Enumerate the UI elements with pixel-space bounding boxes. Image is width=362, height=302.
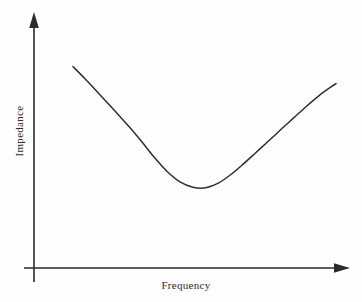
y-axis-label: Impedance <box>0 95 38 167</box>
y-axis-arrowhead-icon <box>29 12 39 28</box>
axes-group <box>24 12 350 282</box>
impedance-curve-path <box>73 67 336 189</box>
impedance-frequency-chart: Impedance Frequency <box>0 0 362 302</box>
data-series-group <box>73 67 336 189</box>
y-axis-label-text: Impedance <box>13 106 25 157</box>
x-axis-arrowhead-icon <box>334 263 350 273</box>
x-axis-label-text: Frequency <box>161 279 210 291</box>
x-axis-label: Frequency <box>140 279 232 291</box>
chart-canvas <box>0 0 362 302</box>
